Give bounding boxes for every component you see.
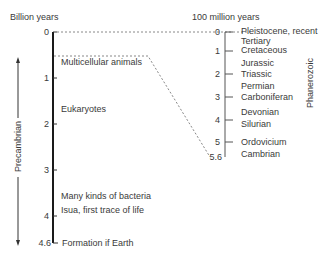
right-tick-4: 4 bbox=[204, 115, 220, 125]
period-permian: Permian bbox=[241, 81, 275, 91]
right-tick-1: 1 bbox=[204, 46, 220, 56]
left-tick-1: 1 bbox=[33, 73, 49, 83]
left-tick-0: 0 bbox=[33, 27, 49, 37]
event-isua-first-trace: Isua, first trace of life bbox=[61, 205, 144, 215]
left-axis-title: Billion years bbox=[10, 12, 59, 22]
period-carboniferan: Carboniferan bbox=[241, 92, 293, 102]
right-tick-0: 0 bbox=[204, 27, 220, 37]
right-tick-2: 2 bbox=[204, 69, 220, 79]
period-pleistocene: Pleistocene, recent bbox=[241, 26, 318, 36]
period-silurian: Silurian bbox=[241, 119, 271, 129]
event-multicellular-animals: Multicellular animals bbox=[61, 57, 142, 67]
phanerozoic-label: Phanerozoic bbox=[305, 58, 315, 108]
period-devonian: Devonian bbox=[241, 107, 279, 117]
event-formation-of-earth: Formation if Earth bbox=[62, 238, 134, 248]
period-cretaceous: Cretaceous bbox=[241, 45, 287, 55]
period-jurassic: Jurassic bbox=[241, 58, 274, 68]
precambrian-label: Precambrian bbox=[13, 121, 23, 172]
right-tick-5-6: 5.6 bbox=[206, 152, 222, 162]
right-tick-3: 3 bbox=[204, 92, 220, 102]
period-cambrian: Cambrian bbox=[241, 149, 280, 159]
period-ordovicium: Ordovicium bbox=[241, 137, 287, 147]
event-many-kinds-of-bacteria: Many kinds of bacteria bbox=[61, 191, 151, 201]
left-tick-4-6: 4.6 bbox=[35, 238, 51, 248]
right-tick-5: 5 bbox=[204, 137, 220, 147]
left-tick-2: 2 bbox=[33, 119, 49, 129]
period-triassic: Triassic bbox=[241, 69, 272, 79]
left-tick-4: 4 bbox=[33, 211, 49, 221]
right-axis-title: 100 million years bbox=[192, 12, 260, 22]
event-eukaryotes: Eukaryotes bbox=[61, 104, 106, 114]
left-tick-3: 3 bbox=[33, 165, 49, 175]
